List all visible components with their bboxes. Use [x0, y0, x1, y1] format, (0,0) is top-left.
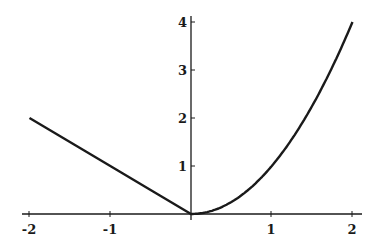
x-tick-label: -1	[103, 222, 117, 237]
y-tick-label: 3	[178, 63, 187, 78]
plot-canvas: -2 -1 1 2 1 2 3 4	[0, 0, 375, 248]
y-tick-label: 4	[178, 15, 187, 30]
x-tick-label: 1	[266, 222, 275, 237]
x-tick-label: -2	[22, 222, 36, 237]
y-tick-label: 1	[178, 159, 187, 174]
y-tick-label: 2	[178, 111, 187, 126]
x-tick-label: 2	[347, 222, 356, 237]
